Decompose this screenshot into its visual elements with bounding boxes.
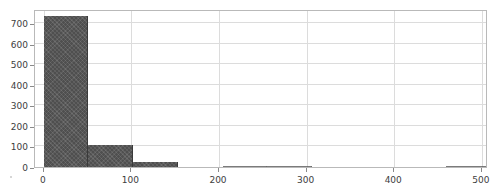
x-tick-label: 300	[297, 176, 314, 185]
x-axis-tick-labels: 0100200300400500	[0, 0, 502, 189]
x-tick-label: 100	[122, 176, 139, 185]
x-tick-label: 500	[472, 176, 489, 185]
x-tick-label: 0	[40, 176, 46, 185]
x-tick-label: 200	[209, 176, 226, 185]
scan-speck	[10, 176, 12, 178]
x-tick-label: 400	[385, 176, 402, 185]
histogram-figure: 0100200300400500600700 0100200300400500	[0, 0, 502, 189]
